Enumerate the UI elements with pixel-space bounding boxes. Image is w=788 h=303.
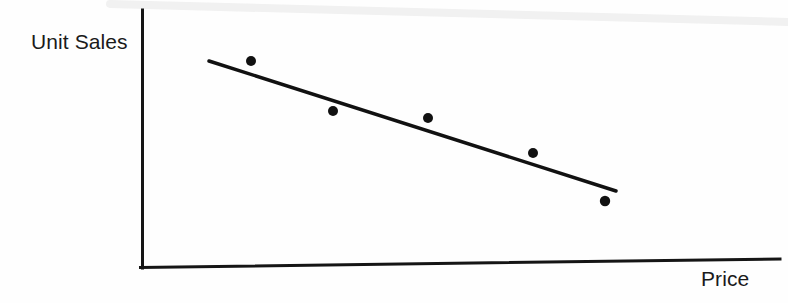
data-point bbox=[328, 106, 338, 116]
scan-artifact-streak bbox=[110, 4, 788, 22]
x-axis-line bbox=[141, 259, 781, 268]
chart-figure: Unit Sales Price bbox=[0, 0, 788, 303]
data-point bbox=[423, 113, 433, 123]
data-point bbox=[528, 148, 538, 158]
data-point bbox=[246, 56, 256, 66]
y-axis-label: Unit Sales bbox=[31, 31, 128, 52]
x-axis-label: Price bbox=[701, 268, 749, 289]
data-point bbox=[600, 196, 610, 206]
trend-line bbox=[209, 61, 616, 191]
